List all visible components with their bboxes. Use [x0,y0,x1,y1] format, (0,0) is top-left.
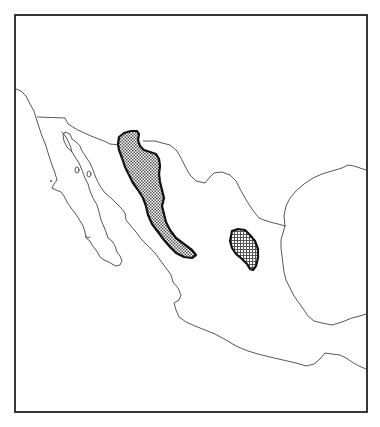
island-tiburon [87,171,91,177]
map-canvas [0,0,380,427]
mainland-pacific-coastline [86,157,366,369]
baja-pacific-coastline [16,89,122,266]
gulf-coast-arc [284,165,366,226]
range-sierra-madre-occidental [118,131,196,258]
island-cluster [86,236,90,238]
baja-gulf-coastline [63,132,104,227]
range-central-plateau [230,229,258,270]
map-frame [15,15,367,412]
island-angel-de-la-guarda [75,167,79,173]
gulf-of-mexico-coastline [281,226,366,325]
island-small [50,180,52,182]
distribution-map [0,0,380,427]
